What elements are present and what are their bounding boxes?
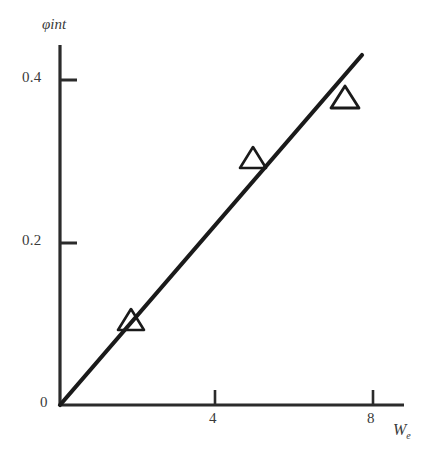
y-tick-label-0: 0	[40, 394, 48, 411]
x-axis-title: We	[393, 421, 411, 441]
y-axis-title: φint	[42, 16, 66, 33]
x-tick-label-8: 8	[367, 410, 375, 427]
y-tick-label-0.2: 0.2	[22, 232, 42, 249]
x-axis-title-base: W	[393, 421, 406, 438]
x-axis-title-subscript: e	[406, 430, 410, 441]
chart-figure: φint We 0.4 0.2 0 4 8	[0, 0, 437, 458]
data-point-marker	[240, 147, 266, 168]
fit-line	[60, 55, 362, 405]
y-tick-label-0.4: 0.4	[22, 69, 42, 86]
x-tick-label-4: 4	[209, 410, 217, 427]
plot-area	[0, 0, 437, 458]
data-point-marker	[331, 86, 359, 108]
